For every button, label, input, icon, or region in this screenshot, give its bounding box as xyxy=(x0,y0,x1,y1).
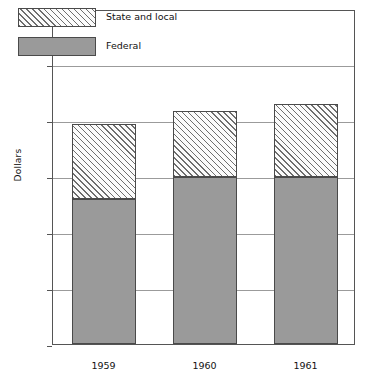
bar-segment-federal[interactable] xyxy=(173,177,237,345)
stacked-bar-chart: Dollars 0150300450600750900195919601961 … xyxy=(0,0,374,379)
gridline xyxy=(53,66,354,67)
x-axis-tick-label: 1961 xyxy=(293,360,317,371)
bar-segment-federal[interactable] xyxy=(72,199,136,344)
legend-swatch-federal xyxy=(18,37,96,56)
bar-segment-state-and-local[interactable] xyxy=(173,111,237,176)
legend-swatch-state-and-local xyxy=(18,8,96,27)
legend-label: Federal xyxy=(106,40,141,51)
y-axis-tick-mark xyxy=(47,234,52,235)
plot-area: 0150300450600750900195919601961 xyxy=(52,10,355,345)
x-axis-tick-label: 1960 xyxy=(192,360,216,371)
bar-1959[interactable] xyxy=(72,124,136,344)
bar-segment-state-and-local[interactable] xyxy=(72,124,136,198)
y-axis-tick-mark xyxy=(47,346,52,347)
bar-1961[interactable] xyxy=(274,104,338,344)
y-axis-tick-mark xyxy=(47,66,52,67)
y-axis-title: Dollars xyxy=(13,125,23,205)
y-axis-tick-mark xyxy=(47,122,52,123)
x-axis-tick-label: 1959 xyxy=(91,360,115,371)
y-axis-tick-mark xyxy=(47,290,52,291)
legend-label: State and local xyxy=(106,11,177,22)
y-axis-tick-mark xyxy=(47,178,52,179)
bar-1960[interactable] xyxy=(173,111,237,344)
bar-segment-federal[interactable] xyxy=(274,177,338,345)
bar-segment-state-and-local[interactable] xyxy=(274,104,338,177)
